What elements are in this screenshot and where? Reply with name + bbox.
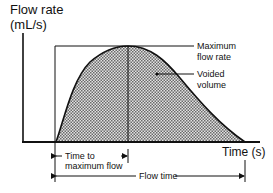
- max-flow-label-2: flow rate: [197, 52, 231, 63]
- y-axis-title: Flow rate: [10, 3, 63, 16]
- x-axis-title: Time (s): [222, 146, 266, 158]
- y-axis-unit: (mL/s): [10, 18, 47, 31]
- voided-volume-label-2: volume: [197, 80, 226, 91]
- flow-time-label: Flow time: [139, 171, 178, 182]
- max-flow-label-1: Maximum: [197, 41, 236, 52]
- voided-volume-label-1: Voided: [197, 69, 225, 80]
- time-to-max-label-2: maximum flow: [65, 161, 123, 172]
